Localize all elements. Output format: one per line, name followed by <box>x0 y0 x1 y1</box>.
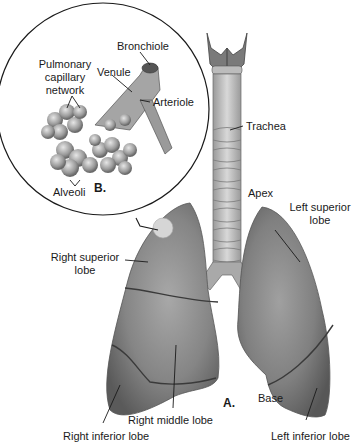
label-right-inferior-lobe: Right inferior lobe <box>63 430 149 443</box>
label-right-superior-lobe: Right superior lobe <box>45 251 125 277</box>
inset-location-marker <box>153 218 173 238</box>
left-lung <box>238 207 333 417</box>
label-left-superior-lobe: Left superior lobe <box>285 201 355 227</box>
right-lung <box>107 203 219 415</box>
label-bronchiole: Bronchiole <box>117 40 169 53</box>
label-pulmonary-capillary-network: Pulmonary capillary network <box>36 58 94 97</box>
larynx <box>207 33 247 74</box>
label-venule: Venule <box>97 66 131 79</box>
inset-circle <box>0 3 209 230</box>
label-arteriole: Arteriole <box>153 96 194 109</box>
label-left-inferior-lobe: Left inferior lobe <box>271 430 350 443</box>
label-panel-b: B. <box>94 182 106 195</box>
label-panel-a: A. <box>223 397 235 410</box>
label-apex: Apex <box>248 187 273 200</box>
label-base: Base <box>258 392 283 405</box>
label-right-middle-lobe: Right middle lobe <box>128 414 213 427</box>
label-alveoli: Alveoli <box>53 186 85 199</box>
label-trachea: Trachea <box>246 120 286 133</box>
